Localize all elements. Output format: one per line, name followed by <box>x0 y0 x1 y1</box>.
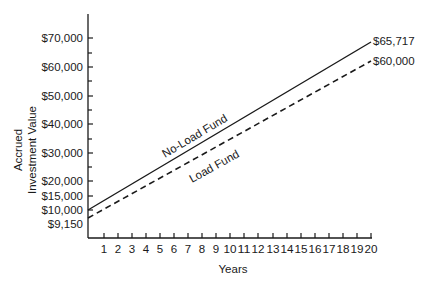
chart: $70,000 $60,000 $50,000 $40,000 $30,000 … <box>0 0 426 283</box>
x-tick-label: 5 <box>157 243 163 255</box>
x-tick-label: 17 <box>323 243 336 255</box>
x-tick-label: 3 <box>129 243 135 255</box>
x-tick-label: 2 <box>115 243 121 255</box>
x-tick-label: 8 <box>199 243 205 255</box>
x-tick-label: 9 <box>213 243 219 255</box>
y-tick-label: $40,000 <box>41 118 83 130</box>
y-tick-label: $30,000 <box>41 147 83 159</box>
load-fund-label: Load Fund <box>187 148 241 185</box>
y-tick-label: $60,000 <box>41 61 83 73</box>
y-tick-label: $20,000 <box>41 175 83 187</box>
no-load-fund-line <box>88 42 371 210</box>
y-tick-labels: $70,000 $60,000 $50,000 $40,000 $30,000 … <box>41 32 83 230</box>
y-tick-label: $70,000 <box>41 32 83 44</box>
x-tick-labels: 1 2 3 4 5 6 7 8 9 10 11 12 13 14 15 16 1… <box>101 243 378 255</box>
y-tick-label: $15,000 <box>41 190 83 202</box>
y-tick-label: $10,000 <box>41 204 83 216</box>
no-load-fund-end-value: $65,717 <box>373 35 415 47</box>
no-load-fund-label: No-Load Fund <box>160 112 229 160</box>
x-tick-label: 12 <box>252 243 265 255</box>
y-tick-label: $9,150 <box>48 218 83 230</box>
x-tick-label: 20 <box>365 243 378 255</box>
x-tick-label: 10 <box>224 243 237 255</box>
x-axis-title: Years <box>219 263 248 275</box>
x-tick-label: 4 <box>143 243 150 255</box>
x-tick-label: 14 <box>281 243 295 255</box>
y-tick-label: $50,000 <box>41 90 83 102</box>
x-tick-label: 1 <box>101 243 107 255</box>
y-major-ticks <box>88 38 93 210</box>
y-axis-title-line-1: Accrued <box>12 129 24 171</box>
x-tick-label: 11 <box>238 243 251 255</box>
x-tick-label: 16 <box>309 243 322 255</box>
x-tick-label: 13 <box>267 243 280 255</box>
x-tick-label: 6 <box>171 243 177 255</box>
load-fund-end-value: $60,000 <box>373 55 415 67</box>
x-tick-label: 15 <box>295 243 308 255</box>
x-tick-label: 7 <box>185 243 191 255</box>
y-axis-title: Accrued Investment Value <box>12 106 38 194</box>
x-tick-label: 19 <box>351 243 364 255</box>
y-axis-title-line-2: Investment Value <box>26 106 38 194</box>
x-tick-label: 18 <box>337 243 350 255</box>
x-ticks <box>104 233 371 238</box>
load-fund-line <box>88 61 371 218</box>
